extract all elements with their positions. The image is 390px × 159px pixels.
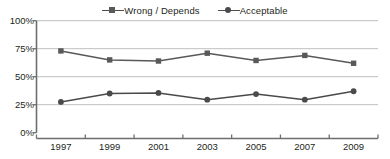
plot-area: 0%25%50%75%100% 199719992001200320052007… bbox=[0, 18, 390, 159]
legend-item-wrong-depends: Wrong / Depends bbox=[102, 5, 199, 16]
data-point-marker bbox=[58, 48, 63, 53]
data-point-marker bbox=[58, 99, 64, 105]
data-point-marker bbox=[302, 53, 307, 58]
data-point-marker bbox=[351, 88, 357, 94]
data-point-marker bbox=[205, 50, 210, 55]
line-chart: Wrong / Depends Acceptable 0%25%50%75%10… bbox=[0, 0, 390, 159]
data-point-marker bbox=[302, 97, 308, 103]
data-point-marker bbox=[351, 61, 356, 66]
plot-canvas bbox=[0, 18, 390, 159]
legend-label-wrong-depends: Wrong / Depends bbox=[124, 5, 199, 16]
data-point-marker bbox=[253, 58, 258, 63]
legend-item-acceptable: Acceptable bbox=[218, 5, 288, 16]
data-point-marker bbox=[107, 57, 112, 62]
legend-label-acceptable: Acceptable bbox=[240, 5, 288, 16]
legend-swatch-circle-icon bbox=[218, 5, 240, 16]
data-point-marker bbox=[253, 91, 259, 97]
data-point-marker bbox=[156, 58, 161, 63]
data-point-marker bbox=[204, 97, 210, 103]
data-point-marker bbox=[107, 91, 113, 97]
legend-swatch-square-icon bbox=[102, 5, 124, 16]
chart-legend: Wrong / Depends Acceptable bbox=[0, 2, 390, 18]
data-point-marker bbox=[156, 90, 162, 96]
